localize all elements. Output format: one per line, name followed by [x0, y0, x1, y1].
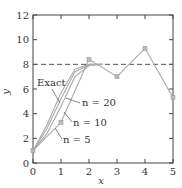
data-point-marker	[87, 57, 91, 61]
x-tick-label: 4	[142, 166, 148, 177]
leader-n5	[55, 128, 62, 139]
label-n5: n = 5	[63, 134, 91, 145]
y-tick-label: 0	[23, 158, 29, 169]
x-tick-label: 5	[170, 166, 176, 177]
y-tick-label: 4	[23, 108, 29, 119]
label-exact: Exact	[37, 77, 66, 88]
data-point-marker	[115, 75, 119, 79]
y-tick-label: 6	[23, 84, 29, 95]
x-axis-label: x	[98, 175, 104, 186]
y-tick-label: 2	[23, 133, 29, 144]
label-n10: n = 10	[73, 117, 107, 128]
leader-exact	[52, 89, 60, 103]
leader-n20	[66, 98, 80, 103]
data-point-marker	[171, 96, 175, 100]
axis-ticks	[33, 15, 173, 163]
x-tick-label: 2	[86, 166, 92, 177]
x-tick-label: 3	[114, 166, 120, 177]
plot-frame	[33, 15, 173, 163]
chart: 012345024681012 x y Exact n = 20 n = 10 …	[0, 0, 182, 188]
leader-n10	[64, 112, 72, 122]
x-tick-label: 0	[30, 166, 36, 177]
y-tick-label: 12	[16, 10, 29, 21]
tick-labels: 012345024681012	[16, 10, 176, 178]
data-point-marker	[59, 120, 63, 124]
x-tick-label: 1	[58, 166, 64, 177]
y-tick-label: 8	[23, 59, 29, 70]
data-point-marker	[143, 46, 147, 50]
y-tick-label: 10	[16, 34, 29, 45]
label-n20: n = 20	[82, 97, 116, 108]
y-axis-label: y	[0, 89, 11, 96]
